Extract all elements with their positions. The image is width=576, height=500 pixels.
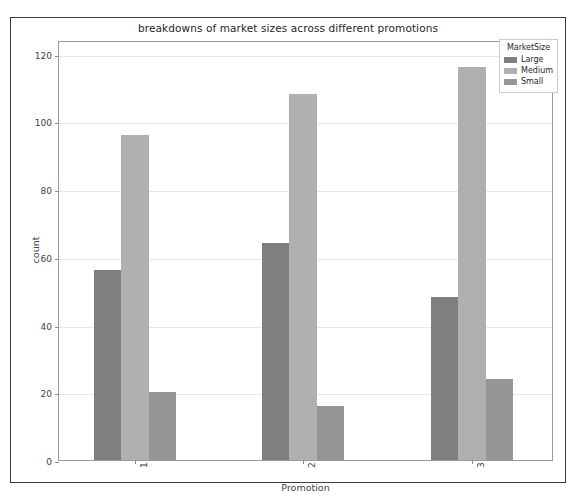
bar	[262, 243, 290, 460]
x-axis-label: Promotion	[58, 482, 553, 493]
bar	[431, 297, 459, 460]
y-tick-mark	[55, 394, 59, 395]
legend-entries: LargeMediumSmall	[504, 55, 553, 86]
x-tick-label: 2	[307, 462, 317, 468]
legend-entry: Large	[504, 55, 553, 64]
legend-swatch	[504, 57, 517, 63]
bar	[149, 392, 177, 460]
legend-swatch	[504, 68, 517, 74]
legend-swatch	[504, 79, 517, 85]
y-tick-label: 120	[35, 51, 52, 61]
legend: MarketSize LargeMediumSmall	[499, 39, 558, 93]
legend-label: Medium	[521, 66, 553, 75]
y-tick-mark	[55, 327, 59, 328]
y-axis-label: count	[30, 237, 41, 264]
legend-label: Small	[521, 77, 543, 86]
x-tick-mark	[135, 460, 136, 464]
bar	[458, 67, 486, 460]
y-tick-mark	[55, 191, 59, 192]
chart-title: breakdowns of market sizes across differ…	[11, 22, 565, 34]
y-tick-mark	[55, 123, 59, 124]
x-tick-label: 3	[476, 462, 486, 468]
bar	[289, 94, 317, 460]
plot-area: 020406080100120 123	[58, 41, 553, 461]
x-tick-label: 1	[139, 462, 149, 468]
x-tick-mark	[303, 460, 304, 464]
bar	[121, 135, 149, 460]
bar	[317, 406, 345, 460]
legend-title: MarketSize	[504, 43, 553, 52]
y-tick-mark	[55, 56, 59, 57]
y-tick-label: 100	[35, 118, 52, 128]
y-tick-mark	[55, 259, 59, 260]
legend-label: Large	[521, 55, 544, 64]
y-tick-label: 40	[41, 322, 52, 332]
bar	[486, 379, 514, 460]
legend-entry: Medium	[504, 66, 553, 75]
y-tick-label: 60	[41, 254, 52, 264]
legend-entry: Small	[504, 77, 553, 86]
figure-frame: breakdowns of market sizes across differ…	[10, 17, 566, 483]
y-tick-label: 0	[46, 457, 52, 467]
y-tick-mark	[55, 462, 59, 463]
x-tick-mark	[472, 460, 473, 464]
y-tick-label: 20	[41, 389, 52, 399]
y-tick-label: 80	[41, 186, 52, 196]
bar	[94, 270, 122, 460]
gridline	[59, 56, 552, 57]
